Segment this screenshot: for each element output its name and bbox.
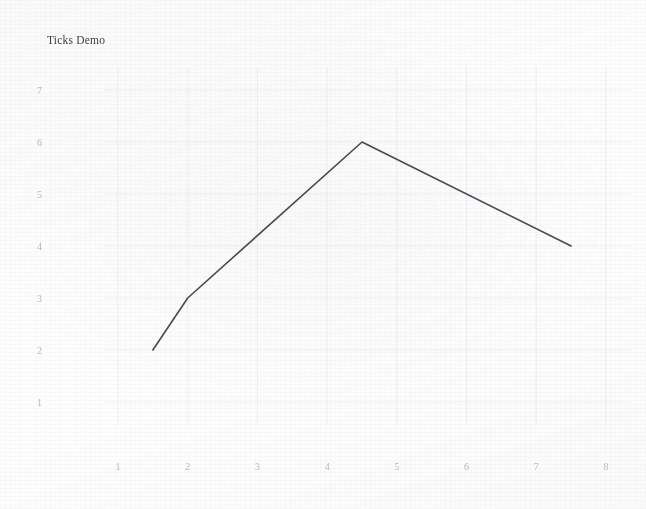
chart-title: Ticks Demo bbox=[47, 34, 105, 46]
x-tick-label-2: 2 bbox=[185, 461, 190, 472]
x-tick-label-7: 7 bbox=[534, 461, 539, 472]
y-tick-label-6: 6 bbox=[26, 137, 42, 148]
y-tick-label-2: 2 bbox=[26, 345, 42, 356]
x-tick-label-8: 8 bbox=[604, 461, 609, 472]
x-tick-label-5: 5 bbox=[394, 461, 399, 472]
x-tick-label-4: 4 bbox=[325, 461, 330, 472]
y-tick-label-7: 7 bbox=[26, 85, 42, 96]
x-tick-label-3: 3 bbox=[255, 461, 260, 472]
gridlines bbox=[104, 67, 630, 426]
y-tick-label-5: 5 bbox=[26, 189, 42, 200]
y-tick-label-4: 4 bbox=[26, 241, 42, 252]
x-tick-label-1: 1 bbox=[116, 461, 121, 472]
y-tick-label-1: 1 bbox=[26, 397, 42, 408]
x-tick-label-6: 6 bbox=[464, 461, 469, 472]
chart-page: Ticks Demo 1234567 12345678 bbox=[0, 0, 646, 509]
y-tick-label-3: 3 bbox=[26, 293, 42, 304]
plot-area bbox=[0, 0, 646, 509]
